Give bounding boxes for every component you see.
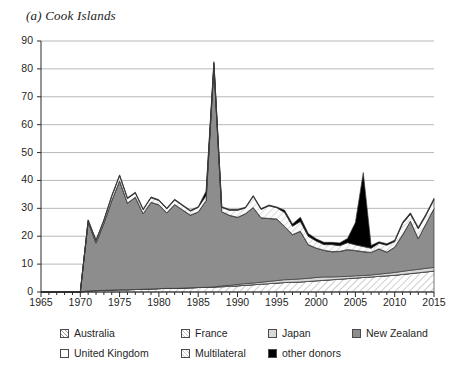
- page-title: (a) Cook Islands: [26, 8, 116, 24]
- x-axis-tick-label: 1965: [21, 296, 61, 308]
- y-axis-tick-label: 70: [11, 90, 33, 102]
- x-axis-tick-label: 1995: [257, 296, 297, 308]
- x-axis-tick-label: 1975: [100, 296, 140, 308]
- y-axis-tick-label: 10: [11, 257, 33, 269]
- legend-swatch-france-icon: [181, 329, 190, 338]
- x-axis-tick-label: 2000: [296, 296, 336, 308]
- legend-swatch-australia-icon: [60, 329, 69, 338]
- y-axis-tick-label: 30: [11, 201, 33, 213]
- x-axis-tick-label: 1985: [178, 296, 218, 308]
- legend-label-united_kingdom: United Kingdom: [74, 347, 149, 359]
- x-axis-tick-label: 1990: [218, 296, 258, 308]
- y-axis-tick-label: 20: [11, 229, 33, 241]
- stacked-areas: [41, 62, 434, 292]
- legend-label-other_donors: other donors: [282, 347, 341, 359]
- y-axis-tick-label: 90: [11, 34, 33, 46]
- legend-swatch-new_zealand-icon: [352, 329, 361, 338]
- chart-canvas: [0, 0, 459, 367]
- y-axis-tick-label: 60: [11, 118, 33, 130]
- x-axis-tick-label: 2015: [414, 296, 454, 308]
- legend-swatch-other_donors-icon: [268, 349, 277, 358]
- legend-item-united_kingdom: United Kingdom: [60, 347, 149, 359]
- legend-item-australia: Australia: [60, 327, 115, 339]
- legend-item-other_donors: other donors: [268, 347, 341, 359]
- legend-swatch-united_kingdom-icon: [60, 349, 69, 358]
- legend-label-new_zealand: New Zealand: [366, 327, 428, 339]
- y-axis-tick-label: 80: [11, 62, 33, 74]
- figure-cook-islands: (a) Cook Islands 0102030405060708090 196…: [0, 0, 459, 367]
- x-axis-tick-label: 2010: [375, 296, 415, 308]
- legend-label-multilateral: Multilateral: [195, 347, 246, 359]
- x-axis-tick-label: 1980: [139, 296, 179, 308]
- legend-swatch-japan-icon: [268, 329, 277, 338]
- legend-label-japan: Japan: [282, 327, 311, 339]
- y-axis-tick-label: 40: [11, 173, 33, 185]
- legend-item-new_zealand: New Zealand: [352, 327, 428, 339]
- x-axis-tick-label: 1970: [60, 296, 100, 308]
- legend-label-australia: Australia: [74, 327, 115, 339]
- legend-swatch-multilateral-icon: [181, 349, 190, 358]
- area-series-new_zealand: [41, 67, 434, 292]
- legend-label-france: France: [195, 327, 228, 339]
- legend-item-france: France: [181, 327, 228, 339]
- y-axis-tick-label: 50: [11, 146, 33, 158]
- chart-legend: AustraliaFranceJapanNew Zealand United K…: [0, 325, 459, 367]
- legend-item-japan: Japan: [268, 327, 311, 339]
- legend-item-multilateral: Multilateral: [181, 347, 246, 359]
- x-axis-tick-label: 2005: [335, 296, 375, 308]
